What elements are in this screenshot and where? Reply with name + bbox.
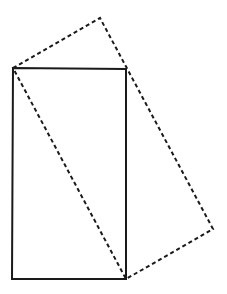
- diagram-canvas: [0, 0, 227, 294]
- rectangle-overlap-diagram: [0, 0, 227, 294]
- dashed-rotated-rectangle: [13, 18, 213, 279]
